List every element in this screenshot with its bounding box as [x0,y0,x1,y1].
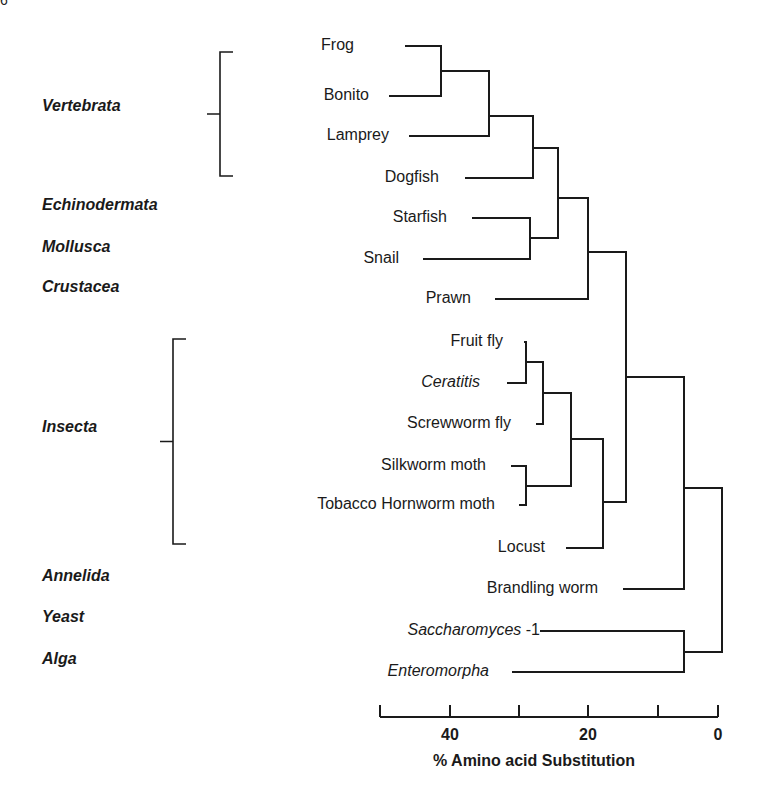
tree-branch [526,393,571,486]
tree-branch [423,218,530,259]
tree-branch [512,631,684,672]
tree-branch [684,488,722,652]
scale-axis [380,705,718,717]
bracket-insecta [160,339,186,544]
tree-branch [588,252,626,502]
dendrogram [0,0,765,808]
tree-branch [530,148,558,238]
tree-branch [511,466,526,505]
tree-branch [465,116,533,178]
bracket-vertebrata [207,52,233,176]
tree-branch [389,46,441,96]
tree-branch [409,71,489,136]
tree-branch [526,362,543,424]
tree-branch [623,377,684,589]
tree-branch [495,198,588,299]
tree-branches [389,46,722,672]
group-brackets [160,52,233,544]
tree-branch [507,342,526,383]
